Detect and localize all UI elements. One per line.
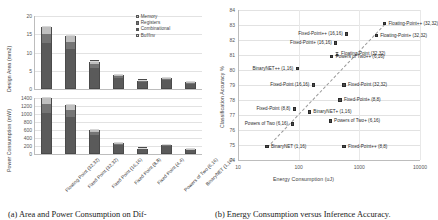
bar-segment-registers (42, 34, 51, 42)
axis-tick: 5 (11, 68, 32, 74)
bar (65, 105, 76, 154)
scatter-point-label: Fixed-Point (16,16) (238, 82, 309, 87)
axis-tick: 200 (11, 143, 32, 149)
axis-tick: 76 (216, 127, 235, 133)
design-area-plot (35, 16, 202, 89)
bar-segment-buf-inv (42, 97, 51, 98)
scatter-point-label: Powers of Two+ (6,16) (334, 118, 380, 123)
bar-segment-combinational (66, 49, 75, 88)
bar-segment-combinational (66, 117, 75, 153)
axis-tick: 83 (216, 22, 235, 28)
bar-segment-registers (114, 76, 123, 78)
legend-label: Registers (141, 20, 160, 25)
bar-segment-memory (42, 27, 51, 34)
bar-segment-memory (162, 144, 171, 145)
axis-tick: 75 (216, 142, 235, 148)
bar-segment-registers (42, 104, 51, 112)
scatter-point (293, 107, 296, 110)
bar-segment-combinational (162, 80, 171, 88)
bar (161, 145, 172, 154)
power-x-axis (34, 154, 202, 155)
axis-tick: 74 (216, 157, 235, 163)
axis-tick: 100 (287, 164, 311, 170)
legend-swatch (136, 34, 139, 37)
bar (113, 75, 124, 89)
bar-segment-registers (90, 64, 99, 68)
bar-segment-combinational (114, 78, 123, 88)
axis-tick: 400 (11, 135, 32, 141)
scatter-point-label: BinaryNET+ (1,16) (313, 109, 351, 114)
bar-segment-memory (114, 143, 123, 144)
scatter-plot: Floating-Point++ (32,32)Floating-Point+ … (238, 10, 420, 160)
scatter-point (334, 41, 337, 44)
bar-segment-memory (42, 98, 51, 104)
axis-tick: 79 (216, 82, 235, 88)
bar-segment-registers (162, 145, 171, 146)
axis-tick: 1000 (347, 164, 371, 170)
bar (65, 36, 76, 89)
scatter-point (312, 83, 315, 86)
scatter-point (308, 110, 311, 113)
scatter-point (383, 22, 386, 25)
axis-tick: 10 (11, 50, 32, 56)
axis-tick: 84 (216, 7, 235, 13)
bar-segment-combinational (90, 68, 99, 88)
bar-segment-buf-inv (90, 129, 99, 130)
bar-segment-combinational (90, 135, 99, 153)
bar (185, 82, 196, 89)
axis-tick: 80 (216, 67, 235, 73)
energy-axis-title: Energy Consumption (uJ) (273, 176, 334, 182)
axis-tick: 78 (216, 97, 235, 103)
scatter-point (291, 122, 294, 125)
bar-segment-combinational (186, 84, 195, 88)
bar (41, 98, 52, 154)
scatter-point (338, 98, 341, 101)
scatter-point-label: Fixed-Point++ (8,8) (348, 144, 387, 149)
category-label: Floating Point (32,32) (64, 157, 100, 193)
bar-segment-registers (138, 81, 147, 82)
bar-segment-memory (162, 77, 171, 78)
bar-segment-registers (66, 42, 75, 49)
bar-segment-combinational (42, 113, 51, 153)
scatter-point-label: BinaryNET++ (1,16) (238, 66, 293, 71)
bar-segment-registers (162, 79, 171, 81)
bar-segment-memory (90, 61, 99, 64)
bar (137, 81, 148, 89)
bar (89, 62, 100, 89)
bar-segment-memory (138, 148, 147, 149)
axis-tick: 82 (216, 37, 235, 43)
bar-segment-combinational (138, 82, 147, 88)
bar-segment-buf-inv (66, 35, 75, 36)
panel-area-power: Design Area (mm2) 05101520 MemoryRegiste… (0, 0, 213, 196)
axis-tick: 1000 (11, 111, 32, 117)
legend-item-3: Buf/Inv (136, 33, 170, 39)
axis-tick: 1200 (11, 103, 32, 109)
bar (185, 149, 196, 154)
axis-tick: 0 (11, 86, 32, 92)
legend-swatch (136, 21, 139, 24)
legend-label: Memory (141, 14, 158, 19)
bar-segment-registers (138, 148, 147, 149)
bar-segment-memory (114, 75, 123, 76)
bar-segment-combinational (186, 150, 195, 153)
scatter-point (296, 67, 299, 70)
bar-segment-buf-inv (42, 26, 51, 27)
bar-segment-combinational (114, 145, 123, 153)
scatter-point-label: Fixed-Point (32,32) (348, 82, 387, 87)
axis-tick: 800 (11, 119, 32, 125)
legend-swatch (136, 28, 139, 31)
bar-segment-registers (114, 144, 123, 146)
bar-segment-memory (66, 105, 75, 110)
scatter-point-label: Fixed-Point+ (8,8) (344, 97, 381, 102)
bar-segment-combinational (42, 43, 51, 88)
bar-segment-combinational (138, 149, 147, 153)
scatter-point-label: BinaryNET (1,16) (271, 144, 306, 149)
bar-segment-memory (138, 80, 147, 81)
power-plot (35, 98, 202, 154)
scatter-point-label: Floating-Point+ (32,32) (380, 33, 427, 38)
legend: MemoryRegistersCombinationalBuf/Inv (136, 14, 170, 39)
bar-segment-combinational (162, 146, 171, 153)
axis-tick: 15 (11, 31, 32, 37)
legend-label: Combinational (141, 26, 170, 31)
scatter-point-label: Floating-Point++ (32,32) (389, 21, 438, 26)
